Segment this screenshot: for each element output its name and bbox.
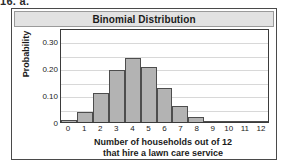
bar (93, 93, 109, 122)
binomial-distribution-chart: Binomial Distribution Probability 00.100… (11, 8, 277, 160)
bar (204, 121, 220, 122)
y-axis-tick-label: 0.30 (42, 38, 58, 47)
bar-series (61, 30, 268, 122)
chart-title-bar: Binomial Distribution (14, 11, 274, 27)
y-axis-title: Probability (21, 18, 31, 90)
y-axis-tick-label: 0.10 (42, 92, 58, 101)
bar-slot (141, 30, 157, 122)
x-axis-tick-label: 0 (60, 124, 76, 136)
x-axis-tick-label: 3 (108, 124, 124, 136)
bar-slot (93, 30, 109, 122)
bar (77, 112, 93, 122)
bar-slot (125, 30, 141, 122)
bar-slot (157, 30, 173, 122)
x-axis-tick-label: 9 (205, 124, 221, 136)
bar (220, 121, 236, 122)
bar-slot (61, 30, 77, 122)
x-axis-tick-label: 4 (124, 124, 140, 136)
bar-slot (77, 30, 93, 122)
bar-slot (204, 30, 220, 122)
bar-slot (236, 30, 252, 122)
bar (157, 88, 173, 122)
bar-slot (109, 30, 125, 122)
bar (172, 106, 188, 122)
bar-slot (188, 30, 204, 122)
plot-area (60, 29, 269, 123)
x-axis-tick-label: 12 (253, 124, 269, 136)
x-axis-tick-label: 2 (92, 124, 108, 136)
bar (236, 121, 252, 122)
y-axis-tick-label: 0.20 (42, 65, 58, 74)
bar (125, 58, 141, 122)
x-axis-tick-label: 7 (173, 124, 189, 136)
x-axis-tick-labels: 0123456789101112 (60, 124, 269, 136)
x-axis-tick-label: 6 (156, 124, 172, 136)
bar (252, 121, 268, 122)
bar (109, 70, 125, 122)
bar (61, 120, 77, 122)
x-axis-title-line1: Number of households out of 12 (94, 137, 232, 147)
bar (188, 117, 204, 122)
x-axis-title-line2: that hire a lawn care service (52, 148, 274, 159)
bar (141, 67, 157, 122)
problem-label: 16. a. (0, 0, 29, 5)
x-axis-tick-label: 5 (140, 124, 156, 136)
bar-slot (172, 30, 188, 122)
x-axis-tick-label: 10 (221, 124, 237, 136)
x-axis-tick-label: 8 (189, 124, 205, 136)
x-axis-tick-label: 11 (237, 124, 253, 136)
bar-slot (252, 30, 268, 122)
y-axis-tick-label: 0 (54, 119, 58, 128)
bar-slot (220, 30, 236, 122)
x-axis-tick-label: 1 (76, 124, 92, 136)
chart-title: Binomial Distribution (92, 14, 195, 25)
y-axis-tick-labels: 00.100.200.30 (34, 29, 58, 123)
x-axis-title: Number of households out of 12 that hire… (52, 137, 274, 159)
plot-wrap: Probability 00.100.200.30 01234567891011… (12, 29, 276, 160)
